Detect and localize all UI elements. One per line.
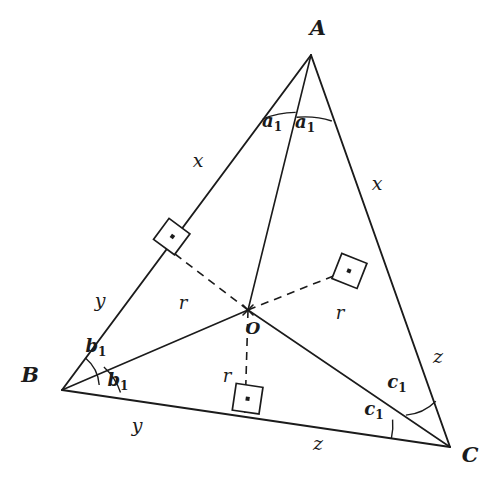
arc-b1-upper — [86, 358, 100, 385]
angle-label-c1-lower: c1 — [364, 398, 383, 422]
side-label-z-lower-right: z — [432, 345, 444, 367]
angle-subscript: 1 — [274, 120, 282, 134]
radius-label-right: r — [336, 302, 346, 323]
angle-subscript: 1 — [120, 379, 128, 393]
angle-subscript: 1 — [398, 381, 406, 395]
right-angle-marker-bc — [232, 383, 263, 414]
triangle-incenter-diagram: A B C O x x y y z z r r r a1 a1 b1 — [0, 0, 500, 486]
angle-base: b — [86, 335, 99, 356]
svg-text:c1: c1 — [387, 371, 406, 395]
vertex-label-c: C — [462, 442, 479, 467]
arc-c1-upper — [406, 401, 436, 415]
side-label-y-lower-left: y — [94, 289, 106, 311]
radius-label-left: r — [179, 292, 189, 313]
right-angle-marker-ac — [332, 253, 367, 288]
angle-base: c — [387, 371, 398, 392]
radius-label-bottom: r — [223, 365, 233, 386]
side-ac — [311, 55, 450, 447]
angle-label-c1-upper: c1 — [387, 371, 406, 395]
angle-subscript: 1 — [98, 345, 106, 359]
angle-label-b1-lower: b1 — [108, 369, 129, 393]
svg-text:c1: c1 — [364, 398, 383, 422]
geometry-figure: A B C O x x y y z z r r r a1 a1 b1 — [0, 0, 500, 486]
bisector-from-c — [248, 310, 450, 447]
angle-label-b1-upper: b1 — [86, 335, 107, 359]
angle-subscript: 1 — [307, 121, 315, 135]
angle-base: c — [364, 398, 375, 419]
side-label-y-bottom-left: y — [131, 414, 143, 436]
svg-text:b1: b1 — [108, 369, 129, 393]
bisector-from-a — [248, 55, 311, 310]
side-label-x-upper-right: x — [372, 172, 383, 194]
vertex-label-a: A — [308, 15, 326, 40]
incenter-label: O — [246, 318, 261, 338]
angle-subscript: 1 — [375, 408, 383, 422]
side-ab — [62, 55, 311, 390]
angle-label-a1-right: a1 — [295, 111, 315, 135]
svg-text:b1: b1 — [86, 335, 107, 359]
angle-base: a — [262, 110, 274, 131]
right-angle-dot — [245, 396, 250, 401]
angle-base: b — [108, 369, 121, 390]
angle-base: a — [295, 111, 307, 132]
side-label-z-bottom-right: z — [312, 432, 324, 454]
vertex-label-b: B — [20, 362, 39, 387]
svg-text:a1: a1 — [295, 111, 315, 135]
arc-c1-lower — [391, 420, 393, 439]
side-label-x-upper-left: x — [193, 149, 204, 171]
